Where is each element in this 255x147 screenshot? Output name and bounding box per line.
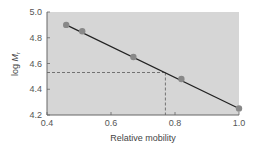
x-tick-label: 0.4 bbox=[41, 118, 54, 128]
data-point bbox=[79, 28, 85, 34]
plot-area bbox=[47, 12, 239, 115]
y-tick-label: 4.6 bbox=[29, 59, 42, 69]
y-tick-label: 4.8 bbox=[29, 33, 42, 43]
y-tick-label: 4.2 bbox=[29, 110, 42, 120]
x-tick-label: 0.8 bbox=[169, 118, 182, 128]
chart: 0.40.60.81.04.24.44.64.85.0 Relative mob… bbox=[0, 0, 255, 147]
data-point bbox=[236, 105, 242, 111]
data-point bbox=[63, 22, 69, 28]
data-point bbox=[178, 76, 184, 82]
y-axis-title: log Mr bbox=[10, 52, 21, 76]
data-point bbox=[130, 54, 136, 60]
x-tick-label: 1.0 bbox=[233, 118, 246, 128]
y-tick-label: 5.0 bbox=[29, 7, 42, 17]
y-tick-label: 4.4 bbox=[29, 84, 42, 94]
x-axis-title: Relative mobility bbox=[110, 133, 176, 143]
x-tick-label: 0.6 bbox=[105, 118, 118, 128]
